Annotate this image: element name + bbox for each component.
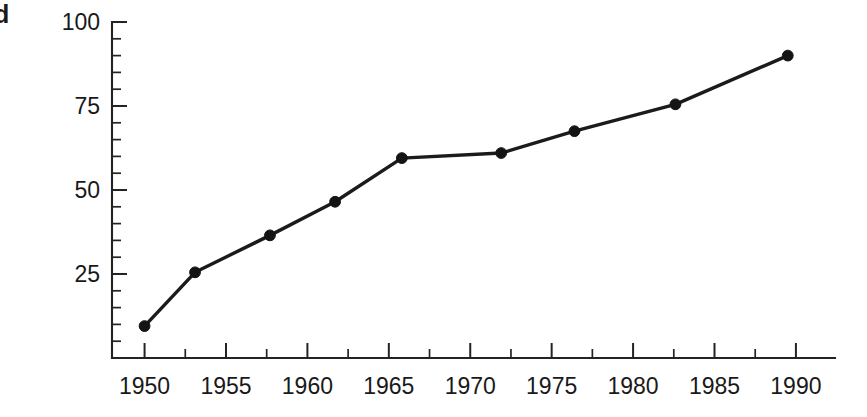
x-tick-label: 1955 [200,373,251,399]
data-point-marker [139,321,150,332]
x-tick-label: 1990 [770,373,821,399]
data-point-marker [670,99,681,110]
data-point-marker [396,153,407,164]
chart-page: d World fish catch (in mmt) 255075100 19… [0,0,867,417]
y-axis-tick-labels: 255075100 [62,9,100,287]
x-tick-label: 1950 [119,373,170,399]
y-tick-label: 25 [74,261,100,287]
x-tick-label: 1975 [526,373,577,399]
x-tick-label: 1985 [689,373,740,399]
data-point-marker [330,196,341,207]
y-tick-label: 75 [74,93,100,119]
data-point-marker [496,148,507,159]
y-tick-label: 100 [62,9,100,35]
data-point-marker [569,126,580,137]
x-axis-ticks [145,343,796,358]
y-axis-ticks [112,22,127,341]
y-tick-label: 50 [74,177,100,203]
x-tick-label: 1960 [282,373,333,399]
data-point-marker [265,230,276,241]
data-series-markers [139,50,793,331]
data-series-line [145,56,788,326]
data-point-marker [782,50,793,61]
x-axis-tick-labels: 195019551960196519701975198019851990 [119,373,822,399]
x-tick-label: 1980 [607,373,658,399]
x-tick-label: 1965 [363,373,414,399]
line-chart: World fish catch (in mmt) 255075100 1950… [0,0,867,417]
x-tick-label: 1970 [445,373,496,399]
data-point-marker [190,267,201,278]
